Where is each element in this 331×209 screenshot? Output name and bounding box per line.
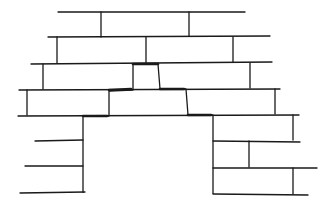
arch-opening-outline [83,64,213,194]
opening-outline [83,64,213,194]
course-5-bed-line [18,115,299,116]
course-2-bed-line [48,36,270,37]
right-pier-bed-line [213,194,308,195]
pier-courses [20,140,317,195]
left-pier-bed-line [20,192,85,193]
corbel-shadow-edge [109,89,131,90]
right-pier-bed-line [213,141,300,142]
course-4-bed-line [19,89,280,90]
corbelled-arch-drawing [0,0,331,209]
left-pier-bed-line [35,140,83,141]
